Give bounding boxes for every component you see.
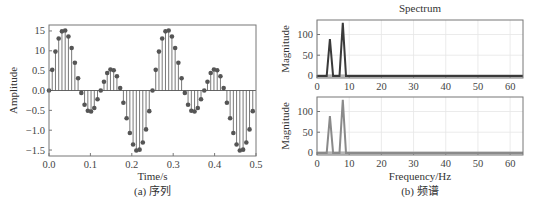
x-tick-label: 0.1: [84, 159, 97, 170]
y-tick-label: 10: [35, 45, 46, 56]
stem-marker: [137, 147, 142, 152]
spectrum-plot-bottom: 0102030405060050100MagnitudeFrequency/Hz…: [279, 97, 523, 198]
x-tick-label: 50: [473, 81, 484, 92]
x-tick-label: 0: [314, 158, 319, 169]
x-axis-label: Frequency/Hz: [389, 170, 451, 182]
stem-marker: [160, 36, 165, 41]
y-tick-label: −1.5: [26, 145, 45, 156]
stem-marker: [150, 88, 155, 93]
stem-marker: [218, 74, 223, 79]
stem-marker: [170, 34, 175, 39]
spectrum-line: [317, 23, 523, 76]
y-tick-label: 50: [303, 50, 314, 61]
stem-marker: [179, 76, 184, 81]
stem-marker: [221, 86, 226, 91]
plot-frame: [317, 20, 523, 78]
x-tick-label: 40: [441, 81, 452, 92]
stem-marker: [176, 60, 181, 65]
stem-marker: [50, 68, 55, 73]
y-tick-label: 15: [35, 25, 46, 36]
x-tick-label: 40: [441, 158, 452, 169]
x-tick-label: 20: [376, 158, 387, 169]
stem-marker: [131, 142, 136, 147]
x-tick-label: 30: [408, 81, 419, 92]
stem-marker: [195, 106, 200, 111]
spectrum-plot-top: 0102030405060050100MagnitudeSpectrum: [279, 2, 523, 92]
stem-marker: [63, 28, 68, 33]
stem-marker: [215, 68, 220, 73]
stem-marker: [73, 60, 78, 65]
y-tick-label: 0.0: [32, 85, 45, 96]
stem-marker: [144, 127, 149, 132]
y-tick-label: 100: [297, 106, 313, 117]
x-tick-label: 20: [376, 81, 387, 92]
x-tick-label: 0.0: [42, 159, 55, 170]
y-tick-label: 100: [297, 29, 313, 40]
stem-marker: [95, 97, 100, 102]
stem-marker: [82, 102, 87, 107]
y-axis-label: Magnitude: [279, 102, 291, 150]
x-tick-label: 10: [344, 158, 355, 169]
stem-marker: [98, 88, 103, 93]
stem-marker: [102, 79, 107, 84]
stem-marker: [205, 79, 210, 84]
stem-marker: [56, 36, 61, 41]
stem-marker: [208, 71, 213, 76]
chart-title: Spectrum: [399, 2, 442, 14]
stem-marker: [225, 101, 230, 106]
y-tick-label: 0.5: [32, 65, 45, 76]
stem-marker: [247, 127, 252, 132]
stem-marker: [89, 109, 94, 114]
stem-marker: [199, 97, 204, 102]
x-tick-label: 60: [505, 81, 516, 92]
y-axis-label: Amplitude: [7, 67, 19, 114]
stem-marker: [128, 131, 133, 136]
y-tick-label: 50: [303, 127, 314, 138]
stem-marker: [250, 109, 255, 114]
stem-marker: [244, 140, 249, 145]
stem-marker: [92, 106, 97, 111]
x-tick-label: 60: [505, 158, 516, 169]
stem-marker: [166, 28, 171, 33]
y-axis-label: Magnitude: [279, 25, 291, 73]
stem-marker: [228, 116, 233, 121]
y-tick-label: 0: [308, 70, 313, 81]
stem-marker: [118, 86, 123, 91]
stem-marker: [192, 109, 197, 114]
stem-marker: [79, 91, 84, 96]
x-tick-label: 50: [473, 158, 484, 169]
stem-marker: [186, 102, 191, 107]
stem-marker: [115, 74, 120, 79]
stem-marker: [141, 140, 146, 145]
stem-marker: [76, 76, 81, 81]
stem-marker: [105, 71, 110, 76]
spectrum-line: [317, 100, 523, 153]
figure: 0.00.10.20.30.40.515100.50.0−0.5−1.0−1.5…: [0, 0, 533, 210]
time-domain-stem-plot: 0.00.10.20.30.40.515100.50.0−0.5−1.0−1.5…: [7, 25, 263, 198]
stem-marker: [69, 46, 74, 51]
stem-marker: [111, 68, 116, 73]
stem-marker: [157, 49, 162, 54]
stem-marker: [66, 34, 71, 39]
stem-marker: [183, 91, 188, 96]
x-tick-label: 10: [344, 81, 355, 92]
y-tick-label: −1.0: [26, 125, 45, 136]
x-axis-label: Time/s: [137, 170, 167, 182]
stem-marker: [241, 147, 246, 152]
stem-marker: [202, 88, 207, 93]
x-tick-label: 0.4: [208, 159, 222, 170]
plot-frame: [317, 97, 523, 155]
caption-b: (b) 频谱: [401, 184, 439, 198]
stem-marker: [234, 142, 239, 147]
stem-marker: [147, 109, 152, 114]
x-tick-label: 0.5: [249, 159, 262, 170]
stem-marker: [153, 68, 158, 73]
y-tick-label: 0: [308, 147, 313, 158]
x-tick-label: 0.2: [125, 159, 138, 170]
x-tick-label: 0.3: [167, 159, 180, 170]
x-tick-label: 0: [314, 81, 319, 92]
caption-a: (a) 序列: [134, 184, 171, 198]
y-tick-label: −0.5: [26, 105, 45, 116]
x-tick-label: 30: [408, 158, 419, 169]
stem-marker: [124, 116, 129, 121]
